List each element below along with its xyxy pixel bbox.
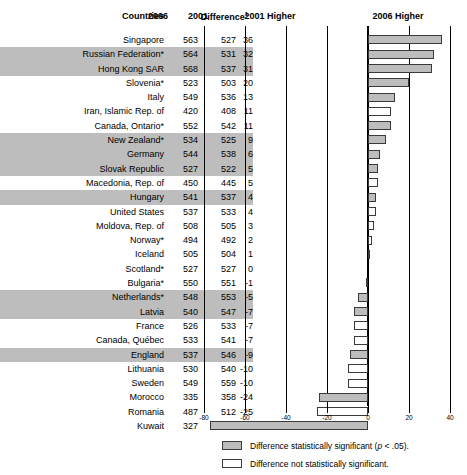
row-value-2006: 335 [168,390,198,404]
axis-tick-label: 20 [394,414,424,421]
bar [354,307,368,316]
bar [368,93,395,102]
legend-label: Difference statistically significant (p … [250,438,409,454]
row-value-2006: 526 [168,319,198,333]
row-value-2006: 552 [168,119,198,133]
row-value-2006: 550 [168,276,198,290]
bar [368,207,376,216]
bar [354,336,368,345]
row-value-2006: 508 [168,219,198,233]
row-value-2006: 544 [168,147,198,161]
row-country-label: Kuwait [0,419,164,433]
row-value-2006: 537 [168,348,198,362]
legend-item: Difference statistically significant (p … [222,438,467,456]
bar [366,278,368,287]
bar-row [204,319,450,333]
bar [368,107,391,116]
bar [368,121,391,130]
row-country-label: Scotland* [0,262,164,276]
axis-tick [286,406,287,413]
bar [348,364,369,373]
chart-legend: Difference statistically significant (p … [222,438,467,474]
bar [350,350,368,359]
legend-swatch [222,441,242,450]
row-country-label: Morocco [0,390,164,404]
row-country-label: Moldova, Rep. of [0,219,164,233]
row-value-2006: 530 [168,362,198,376]
bar-row [204,162,450,176]
row-value-2006: 420 [168,104,198,118]
bar [368,78,409,87]
row-value-2006: 505 [168,247,198,261]
row-value-2006: 494 [168,233,198,247]
axis-tick-label: 40 [435,414,465,421]
row-country-label: Hungary [0,190,164,204]
row-value-2006: 537 [168,205,198,219]
axis-tick-label: -40 [271,414,301,421]
bar-row [204,305,450,319]
bar-row [204,390,450,404]
bar-series [204,33,450,433]
row-country-label: England [0,348,164,362]
bar [368,221,374,230]
row-value-2006: 548 [168,290,198,304]
bar-row [204,47,450,61]
axis-tick-label: -80 [189,414,219,421]
row-country-label: Slovenia* [0,76,164,90]
row-country-label: Lithuania [0,362,164,376]
bar-row [204,119,450,133]
bar-row [204,76,450,90]
axis-tick-label: -60 [230,414,260,421]
row-country-label: United States [0,205,164,219]
row-country-label: Iceland [0,247,164,261]
row-value-2006: 549 [168,90,198,104]
axis-tick-label: 0 [353,414,383,421]
bar-row [204,62,450,76]
x-axis: -80-60-40-2002040 [204,406,450,414]
plot-area [204,26,450,406]
axis-tick-label: -20 [312,414,342,421]
bar-row [204,419,450,433]
bar-row [204,262,450,276]
bar [368,135,386,144]
bar-row [204,33,450,47]
row-value-2006: 527 [168,162,198,176]
row-country-label: Latvia [0,305,164,319]
axis-label-2006-higher: 2006 Higher [350,11,446,21]
bar-row [204,376,450,390]
axis-label-2001-higher: 2001 Higher [222,11,318,21]
bar-row [204,247,450,261]
axis-tick [368,406,369,413]
axis-tick [450,406,451,413]
bar [368,193,376,202]
row-country-label: Italy [0,90,164,104]
legend-item: Difference not statistically significant… [222,456,467,474]
bar-row [204,362,450,376]
bar [368,64,432,73]
row-country-label: France [0,319,164,333]
bar-row [204,90,450,104]
row-country-label: Hong Kong SAR [0,62,164,76]
bar-row [204,133,450,147]
bar [368,178,378,187]
row-country-label: Russian Federation* [0,47,164,61]
row-country-label: Macedonia, Rep. of [0,176,164,190]
bar-row [204,290,450,304]
row-country-label: Romania [0,405,164,419]
bar [368,150,380,159]
row-country-label: Canada, Ontario* [0,119,164,133]
bar-row [204,147,450,161]
row-country-label: Germany [0,147,164,161]
bar [210,421,368,430]
bar-row [204,205,450,219]
row-country-label: Singapore [0,33,164,47]
bar-row [204,219,450,233]
bar [368,50,434,59]
row-country-label: Bulgaria* [0,276,164,290]
row-country-label: Netherlands* [0,290,164,304]
row-value-2006: 563 [168,33,198,47]
row-value-2006: 568 [168,62,198,76]
row-value-2006: 564 [168,47,198,61]
row-country-label: Iran, Islamic Rep. of [0,104,164,118]
bar [368,250,370,259]
